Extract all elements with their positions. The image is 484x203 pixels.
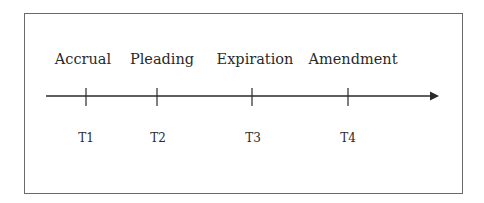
event-label-pleading: Pleading: [130, 51, 194, 67]
event-label-accrual: Accrual: [55, 51, 111, 67]
event-label-expiration: Expiration: [217, 51, 294, 67]
arrow-head-icon: [430, 92, 439, 101]
event-label-amendment: Amendment: [309, 51, 398, 67]
time-label-t2: T2: [150, 131, 166, 145]
time-label-t4: T4: [340, 131, 356, 145]
time-label-t1: T1: [78, 131, 94, 145]
timeline-axis: [0, 0, 484, 203]
time-label-t3: T3: [245, 131, 261, 145]
